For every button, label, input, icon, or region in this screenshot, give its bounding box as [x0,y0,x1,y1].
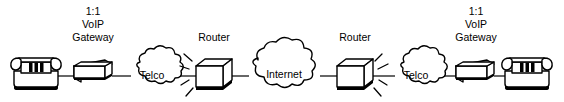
gateway-left-label-line1: 1:1 [86,5,101,17]
router-left-label: Router [198,31,230,43]
gateway-right-label-line2: VoIP [465,18,487,30]
router-right-front-face [337,66,364,87]
gateway-left-label-line2: VoIP [82,18,104,30]
gateway-left-label-line3: Gateway [72,31,114,43]
phone-left-key-1 [29,63,33,72]
phone-left-key-3 [40,63,44,72]
phone-right-key-3 [531,63,535,72]
cloud-internet-label: Internet [266,68,302,80]
router-left-front-face [196,66,223,87]
telephone-left-icon [11,58,61,90]
gateway-left-icon [74,60,112,82]
router-right-label: Router [339,31,371,43]
phone-right-mouthpiece [542,58,552,70]
gateway-right-top-plate [456,62,494,66]
gateway-right-icon [456,60,494,82]
gateway-left-front-face [74,66,105,78]
gateway-right-label-line3: Gateway [455,31,497,43]
phone-right-earpiece [502,58,512,70]
phone-right-key-2 [526,63,530,72]
diagram-canvas: Telco Router Internet Router [0,0,564,102]
phone-right-handset-bar [510,58,544,62]
gateway-right-label-line1: 1:1 [469,5,484,17]
network-diagram: Telco Router Internet Router [0,0,564,102]
gateway-right-front-face [456,66,487,78]
phone-left-earpiece [11,58,21,70]
phone-left-handset-bar [19,58,53,62]
cloud-telco-right-label: Telco [404,69,429,81]
gateway-left-top-plate [74,62,112,66]
phone-left-mouthpiece [51,58,61,70]
phone-right-key-1 [520,63,524,72]
cloud-telco-left-label: Telco [140,69,165,81]
phone-left-key-2 [35,63,39,72]
telephone-right-icon [502,58,552,90]
